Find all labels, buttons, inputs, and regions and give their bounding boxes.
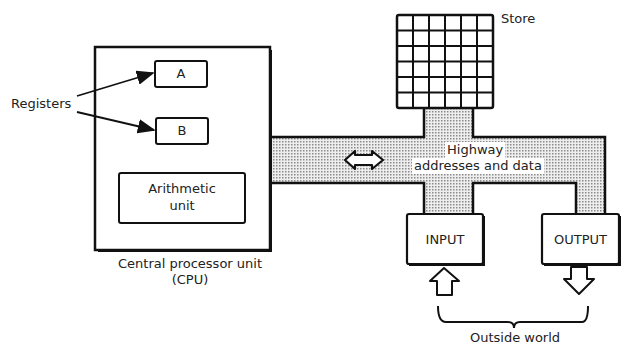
arithmetic-unit-line2: unit: [119, 197, 245, 214]
input-arrow-up-icon: [430, 268, 459, 295]
registers-label: Registers: [11, 96, 71, 112]
output-arrow-down-icon: [564, 267, 594, 294]
arithmetic-unit-label: Arithmetic unit: [119, 180, 245, 214]
cpu-label: Central processor unit (CPU): [95, 256, 285, 288]
register-b-label: B: [156, 123, 208, 138]
store-label: Store: [501, 11, 535, 27]
outside-world-brace: [438, 306, 588, 328]
output-label: OUTPUT: [542, 232, 619, 247]
register-a-label: A: [155, 66, 207, 81]
arithmetic-unit-line1: Arithmetic: [119, 180, 245, 197]
diagram-canvas: [0, 0, 637, 362]
highway-label-line2: addresses and data: [412, 158, 544, 174]
input-label: INPUT: [407, 232, 483, 247]
highway-label-line1: Highway: [445, 142, 505, 158]
outside-world-label: Outside world: [440, 330, 590, 346]
store-grid: [397, 15, 493, 108]
cpu-label-line1: Central processor unit: [95, 256, 285, 272]
cpu-label-line2: (CPU): [95, 272, 285, 288]
